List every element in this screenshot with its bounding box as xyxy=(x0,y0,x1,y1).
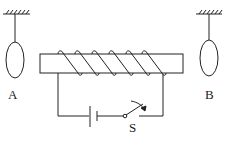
label-s: S xyxy=(129,120,136,135)
label-b: B xyxy=(205,87,214,102)
ring-a xyxy=(6,42,24,78)
circuit-wires xyxy=(58,73,163,116)
battery xyxy=(90,106,97,127)
right-ceiling-support xyxy=(196,10,222,14)
diagram-canvas: A B S xyxy=(0,0,231,147)
label-a: A xyxy=(8,87,18,102)
switch-s xyxy=(123,101,146,118)
solenoid-coil xyxy=(58,51,166,75)
left-ceiling-support xyxy=(3,10,30,14)
ring-b xyxy=(200,40,218,76)
iron-core xyxy=(40,54,183,73)
